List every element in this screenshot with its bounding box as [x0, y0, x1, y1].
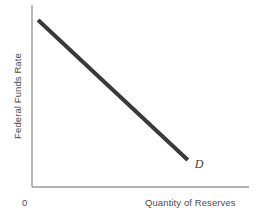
- demand-curve-label: D: [195, 158, 204, 171]
- origin-label: 0: [22, 197, 27, 209]
- plot-area: [0, 0, 258, 222]
- demand-for-reserves-chart: Federal Funds Rate Quantity of Reserves …: [0, 0, 258, 222]
- y-axis-label: Federal Funds Rate: [11, 1, 25, 191]
- demand-curve-line: [38, 20, 188, 160]
- x-axis-label: Quantity of Reserves: [145, 197, 236, 209]
